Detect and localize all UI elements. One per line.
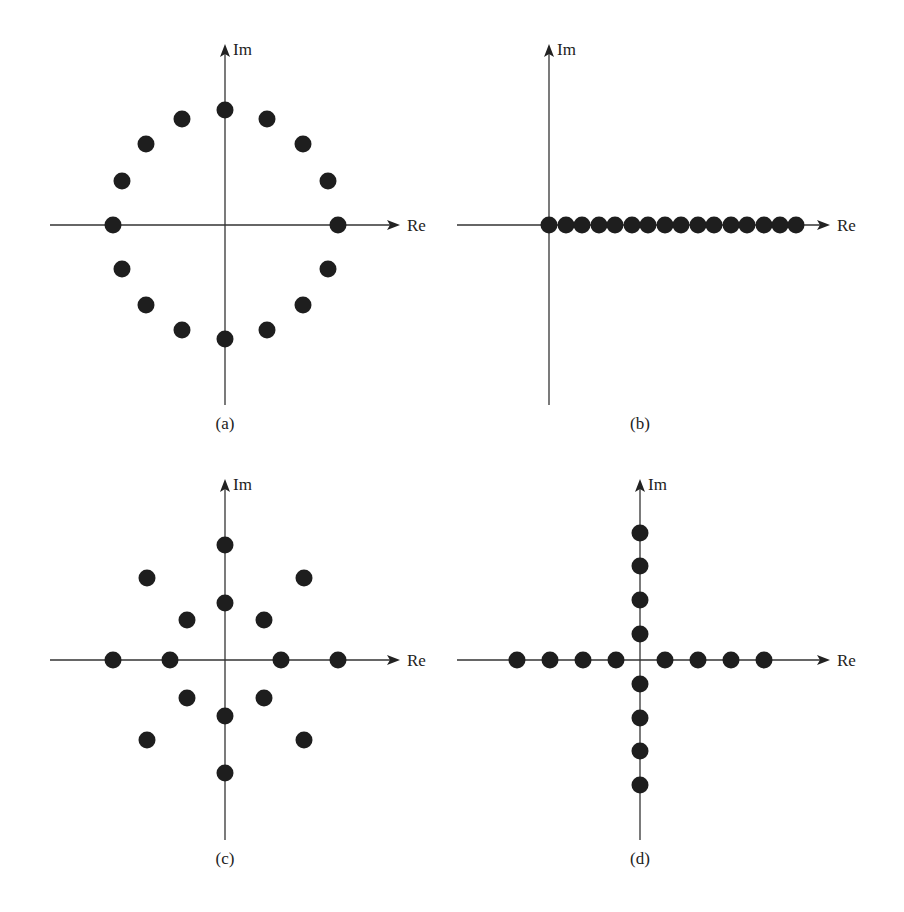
constellation-point	[723, 217, 740, 234]
panel-caption: (a)	[216, 414, 235, 433]
constellation-point	[608, 652, 625, 669]
constellation-point	[542, 652, 559, 669]
re-axis-label: Re	[837, 651, 856, 670]
constellation-point	[114, 173, 131, 190]
im-axis-label: Im	[648, 475, 667, 494]
constellation-point	[640, 217, 657, 234]
constellation-point	[217, 765, 234, 782]
constellation-point	[657, 652, 674, 669]
constellation-point	[591, 217, 608, 234]
constellation-point	[217, 708, 234, 725]
constellation-point	[632, 626, 649, 643]
constellation-point	[179, 690, 196, 707]
constellation-point	[256, 612, 273, 629]
constellation-point	[632, 676, 649, 693]
constellation-point	[558, 217, 575, 234]
re-axis-label: Re	[837, 216, 856, 235]
constellation-point	[756, 217, 773, 234]
panel-c: ReIm(c)	[50, 475, 426, 868]
constellation-point	[690, 652, 707, 669]
constellation-point	[575, 652, 592, 669]
constellation-point	[105, 652, 122, 669]
constellation-point	[509, 652, 526, 669]
constellation-point	[217, 595, 234, 612]
constellation-point	[541, 217, 558, 234]
constellation-point	[295, 297, 312, 314]
constellation-point	[574, 217, 591, 234]
constellation-point	[632, 592, 649, 609]
constellation-point	[114, 261, 131, 278]
constellation-point	[138, 136, 155, 153]
constellation-point	[772, 217, 789, 234]
constellation-point	[256, 690, 273, 707]
constellation-point	[217, 102, 234, 119]
constellation-point	[706, 217, 723, 234]
constellation-point	[320, 261, 337, 278]
constellation-point	[273, 652, 290, 669]
constellation-point	[296, 732, 313, 749]
constellation-point	[174, 322, 191, 339]
panel-caption: (d)	[630, 849, 650, 868]
constellation-point	[139, 570, 156, 587]
panel-caption: (b)	[630, 414, 650, 433]
constellation-point	[632, 525, 649, 542]
constellation-point	[673, 217, 690, 234]
panel-caption: (c)	[216, 849, 235, 868]
re-axis-label: Re	[407, 651, 426, 670]
constellation-point	[259, 111, 276, 128]
constellation-point	[723, 652, 740, 669]
constellation-point	[632, 558, 649, 575]
constellation-point	[632, 743, 649, 760]
constellation-point	[788, 217, 805, 234]
constellation-point	[330, 217, 347, 234]
im-axis-label: Im	[233, 40, 252, 59]
constellation-point	[174, 111, 191, 128]
constellation-point	[162, 652, 179, 669]
im-axis-label: Im	[557, 40, 576, 59]
im-axis-label: Im	[233, 475, 252, 494]
constellation-point	[657, 217, 674, 234]
constellation-point	[632, 777, 649, 794]
constellation-point	[138, 297, 155, 314]
constellation-point	[217, 537, 234, 554]
panel-a: ReIm(a)	[50, 40, 426, 433]
constellation-figure: ReIm(a)ReIm(b)ReIm(c)ReIm(d)	[0, 0, 904, 912]
constellation-point	[624, 217, 641, 234]
constellation-point	[320, 173, 337, 190]
constellation-point	[330, 652, 347, 669]
constellation-point	[105, 217, 122, 234]
constellation-point	[259, 322, 276, 339]
panel-b: ReIm(b)	[457, 40, 856, 433]
constellation-point	[296, 570, 313, 587]
constellation-point	[217, 331, 234, 348]
constellation-point	[690, 217, 707, 234]
constellation-point	[739, 217, 756, 234]
re-axis-label: Re	[407, 216, 426, 235]
constellation-point	[295, 136, 312, 153]
constellation-point	[607, 217, 624, 234]
constellation-point	[632, 710, 649, 727]
panel-d: ReIm(d)	[457, 475, 856, 868]
constellation-point	[756, 652, 773, 669]
constellation-point	[179, 612, 196, 629]
constellation-point	[139, 732, 156, 749]
